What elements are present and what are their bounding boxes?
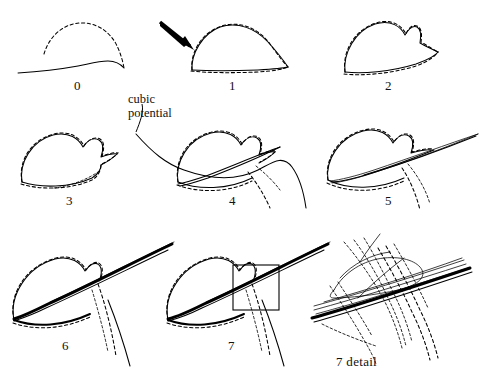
panel-label-6: 6 bbox=[62, 338, 69, 354]
annotation-line-2: potential bbox=[128, 106, 172, 120]
annotation-cubic-potential: cubic potential bbox=[128, 92, 172, 120]
panel-label-1: 1 bbox=[229, 78, 236, 94]
panel-label-3: 3 bbox=[66, 193, 73, 209]
annotation-line-1: cubic bbox=[128, 92, 172, 106]
panel-7-detail-graphic bbox=[0, 0, 495, 392]
panel-label-4: 4 bbox=[229, 193, 236, 209]
panel-label-0: 0 bbox=[74, 78, 81, 94]
panel-label-7: 7 bbox=[228, 338, 235, 354]
figure-canvas: cubic potential 0 1 2 3 4 5 6 7 7 detail bbox=[0, 0, 495, 392]
panel-label-2: 2 bbox=[385, 78, 392, 94]
panel-label-7-detail: 7 detail bbox=[336, 354, 377, 370]
panel-label-5: 5 bbox=[385, 193, 392, 209]
